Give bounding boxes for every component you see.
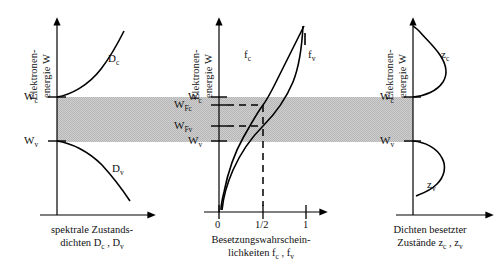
middle-energy-tick-wfc: WFc (174, 98, 192, 114)
left-wc-symbol: W (24, 90, 34, 102)
left-caption-sub2: v (120, 242, 124, 251)
right-wv-sub: v (390, 140, 394, 149)
middle-energy-tick-wv: Wv (188, 134, 202, 150)
left-caption: spektrale Zustands- dichten Dc , Dv (22, 224, 162, 251)
left-caption-pre: dichten D (60, 237, 101, 248)
zv-sub: v (432, 184, 436, 193)
dc-sub: c (116, 58, 119, 67)
curve-label-fc: fc (244, 48, 251, 64)
right-energy-tick-wc: Wc (380, 90, 394, 106)
middle-caption: Besetzungswahrschein- lichkeiten fc , fv (185, 234, 337, 261)
middle-caption-line1: Besetzungswahrschein- (185, 234, 337, 247)
right-wc-symbol: W (380, 90, 390, 102)
left-energy-tick-wv: Wv (24, 134, 38, 150)
zc-sub: c (446, 54, 449, 63)
fv-sub: v (312, 54, 316, 63)
left-wc-sub: c (34, 96, 37, 105)
dv-symbol: D (112, 162, 120, 174)
middle-caption-line2: lichkeiten fc , fv (185, 247, 337, 261)
middle-energy-tick-wfv: WFv (174, 119, 192, 135)
middle-wfc-sub: Fc (184, 104, 192, 113)
middle-wc-sub: c (198, 96, 201, 105)
middle-xtick-label-0: 0 (215, 219, 220, 231)
middle-wfc-symbol: W (174, 98, 184, 110)
right-caption-sub2: v (459, 242, 463, 251)
middle-wv-sub: v (198, 140, 202, 149)
right-wc-sub: c (390, 96, 393, 105)
left-y-axis-label-2: energie W (41, 54, 53, 98)
curve-label-fv: fv (308, 48, 315, 64)
middle-wv-symbol: W (188, 134, 198, 146)
figure-root: Elektronen- energie W Wc Wv Dc Dv spektr… (0, 0, 494, 267)
right-caption-pre: Zustände z (397, 237, 443, 248)
middle-wfv-symbol: W (174, 119, 184, 131)
left-wv-symbol: W (24, 134, 34, 146)
right-wv-symbol: W (380, 134, 390, 146)
right-y-axis-label-line2: energie W (397, 54, 408, 98)
curve-label-dv: Dv (112, 162, 124, 178)
middle-caption-sub2: v (290, 252, 294, 261)
right-energy-tick-wv: Wv (380, 134, 394, 150)
left-caption-mid: , D (105, 237, 120, 248)
left-energy-tick-wc: Wc (24, 90, 38, 106)
middle-caption-mid: , f (279, 247, 290, 258)
dv-sub: v (120, 168, 124, 177)
curve-label-dc: Dc (108, 52, 119, 68)
fc-sub: c (248, 54, 251, 63)
band-gap-shading (57, 97, 413, 142)
middle-y-axis-label-line2: energie W (203, 54, 214, 98)
dc-symbol: D (108, 52, 116, 64)
middle-wfv-sub: Fv (184, 125, 192, 134)
curve-label-zv: zv (427, 178, 436, 194)
left-y-axis-label-line2: energie W (41, 54, 52, 98)
middle-caption-pre: lichkeiten f (228, 247, 276, 258)
left-wv-sub: v (34, 140, 38, 149)
middle-y-axis-label-2: energie W (203, 54, 215, 98)
right-caption-line1: Dichten besetzter (366, 224, 494, 237)
right-caption: Dichten besetzter Zustände zc , zv (366, 224, 494, 251)
middle-xtick-label-half: 1/2 (255, 219, 268, 231)
right-caption-mid: , z (446, 237, 459, 248)
left-caption-line2: dichten Dc , Dv (22, 237, 162, 251)
right-caption-line2: Zustände zc , zv (366, 237, 494, 251)
curve-label-zc: zc (441, 48, 449, 64)
right-y-axis-label-2: energie W (397, 54, 409, 98)
left-caption-line1: spektrale Zustands- (22, 224, 162, 237)
middle-xtick-label-1: 1 (303, 219, 308, 231)
